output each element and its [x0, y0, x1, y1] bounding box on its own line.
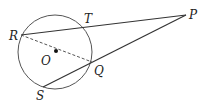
- label-q: Q: [94, 64, 104, 78]
- label-p: P: [188, 8, 198, 22]
- geometry-diagram: R T P Q S O: [0, 0, 209, 104]
- chord-rq-dashed: [21, 35, 92, 62]
- label-t: T: [84, 12, 93, 26]
- label-o: O: [41, 54, 51, 68]
- label-r: R: [8, 29, 18, 43]
- label-s: S: [36, 89, 44, 103]
- secant-rtp: [21, 15, 186, 35]
- center-point-o: [54, 49, 58, 53]
